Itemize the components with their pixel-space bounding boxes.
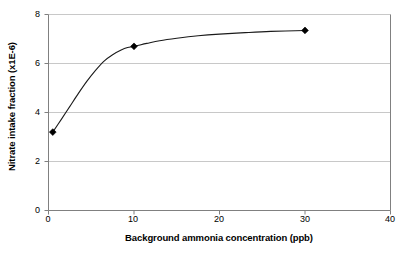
gridlines-group bbox=[49, 15, 391, 162]
plot-area bbox=[0, 0, 407, 256]
data-point-marker bbox=[131, 43, 138, 50]
data-point-marker bbox=[302, 27, 309, 34]
data-series-line bbox=[53, 30, 305, 132]
axis-ticks-group bbox=[45, 15, 391, 215]
data-point-markers bbox=[49, 27, 308, 135]
data-point-marker bbox=[49, 129, 56, 136]
chart-container: Nitrate intake fraction (x1E-6) 8 6 4 2 … bbox=[0, 0, 407, 256]
